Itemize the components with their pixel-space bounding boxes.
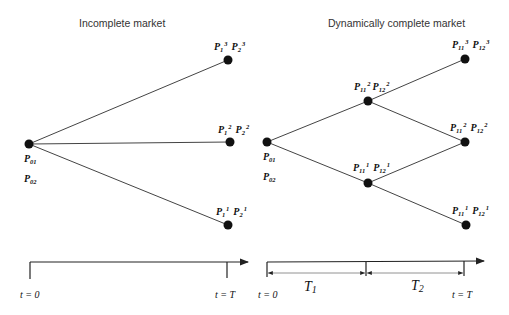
mid-down-label: P111P121: [353, 161, 390, 174]
leaf-node-down: [462, 221, 471, 230]
time-axis: [267, 261, 484, 262]
edge-root-to-mid: [29, 142, 230, 144]
incomplete-market-title: Incomplete market: [79, 17, 165, 29]
leaf-node-up: [461, 55, 470, 64]
period-1-label: T1: [304, 279, 317, 295]
mid-node-down: [364, 179, 373, 188]
root-price-label-2: P02: [263, 171, 276, 183]
complete-market-timeline: T1 T2 t = 0 t = T: [258, 261, 484, 300]
edge-middown-to-down: [368, 183, 466, 225]
leaf-node-mid: [461, 138, 470, 147]
root-price-label-1: P01: [24, 153, 37, 165]
leaf-mid-label: P112P122: [450, 121, 488, 134]
edge-root-to-up: [29, 60, 228, 144]
mid-node-up: [364, 97, 373, 106]
edge-root-to-mid-up: [267, 101, 368, 142]
root-node: [25, 140, 34, 149]
leaf-down-label: P11P21: [216, 205, 247, 218]
leaf-node-up: [224, 56, 233, 65]
label-tT: t = T: [452, 289, 474, 300]
period-2-label: T2: [411, 278, 424, 294]
dynamically-complete-market-diagram: Dynamically complete market P01 P02 P112…: [258, 17, 490, 300]
root-price-label-2: P02: [24, 173, 37, 185]
root-price-label-1: P01: [263, 151, 276, 163]
edge-middown-to-mid: [368, 142, 465, 183]
leaf-down-label: P111P121: [452, 204, 489, 217]
label-t0: t = 0: [258, 289, 278, 300]
leaf-up-label: P113P123: [452, 38, 490, 51]
label-tT: t = T: [215, 289, 237, 300]
complete-market-title: Dynamically complete market: [328, 17, 465, 29]
edge-root-to-down: [29, 144, 228, 225]
market-trees-diagram: Incomplete market P01 P02 P13P23 P12P22 …: [0, 0, 509, 315]
edge-midup-to-up: [368, 59, 465, 101]
incomplete-market-diagram: Incomplete market P01 P02 P13P23 P12P22 …: [20, 17, 250, 300]
label-t0: t = 0: [20, 289, 40, 300]
leaf-node-mid: [226, 138, 235, 147]
root-node: [263, 138, 272, 147]
incomplete-market-timeline: t = 0 t = T: [20, 262, 248, 300]
leaf-up-label: P13P23: [214, 40, 246, 53]
leaf-node-down: [224, 221, 233, 230]
leaf-mid-label: P12P22: [218, 123, 250, 136]
mid-up-label: P112P122: [354, 80, 390, 93]
